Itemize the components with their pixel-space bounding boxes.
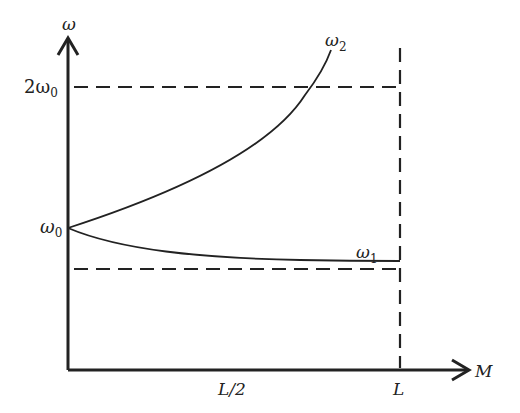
omega1-curve: [68, 228, 400, 261]
omega2-curve: [68, 50, 331, 228]
two-omega0-label: 2ω0: [24, 76, 58, 100]
x-tick-half-L: L/2: [217, 379, 246, 399]
omega1-label: ω1: [356, 242, 378, 266]
x-tick-L: L: [392, 379, 404, 399]
dispersion-diagram: ω M 2ω0 ω0 ω2 ω1 L/2 L: [0, 0, 520, 413]
omega2-label: ω2: [325, 30, 347, 54]
omega0-label: ω0: [40, 216, 62, 240]
y-axis-label: ω: [62, 14, 76, 34]
x-axis-label: M: [474, 361, 493, 381]
